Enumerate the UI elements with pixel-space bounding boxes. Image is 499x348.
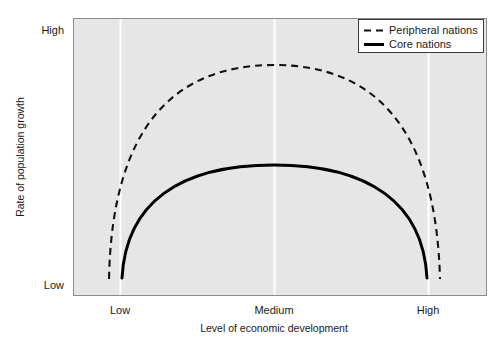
population-growth-chart: High Low Rate of population growth Low M… — [0, 0, 499, 348]
y-tick-label-high: High — [41, 24, 64, 36]
legend-label-peripheral-nations: Peripheral nations — [389, 24, 478, 36]
x-axis-title: Level of economic development — [200, 322, 348, 334]
legend-label-core-nations: Core nations — [389, 38, 452, 50]
x-tick-label-high: High — [417, 304, 440, 316]
chart-legend: Peripheral nations Core nations — [359, 20, 484, 53]
chart-figure: High Low Rate of population growth Low M… — [0, 0, 499, 348]
y-tick-label-low: Low — [44, 279, 64, 291]
y-axis-title: Rate of population growth — [14, 97, 26, 217]
x-tick-label-low: Low — [110, 304, 130, 316]
x-tick-label-medium: Medium — [254, 304, 293, 316]
